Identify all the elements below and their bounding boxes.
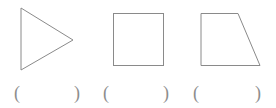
open-paren-1: ( (14, 78, 20, 108)
close-paren-1: ) (74, 78, 80, 108)
trapezoid-shape (201, 14, 260, 66)
square-shape (114, 14, 164, 66)
triangle-shape (21, 8, 73, 70)
shape-worksheet: ( ) ( ) ( ) (0, 0, 276, 108)
close-paren-2: ) (163, 78, 169, 108)
answer-blank-1[interactable]: ( ) (14, 78, 80, 108)
answer-blank-2[interactable]: ( ) (103, 78, 169, 108)
answer-blank-3[interactable]: ( ) (193, 78, 261, 108)
open-paren-3: ( (193, 78, 199, 108)
open-paren-2: ( (103, 78, 109, 108)
close-paren-3: ) (255, 78, 261, 108)
answer-row: ( ) ( ) ( ) (0, 78, 276, 108)
